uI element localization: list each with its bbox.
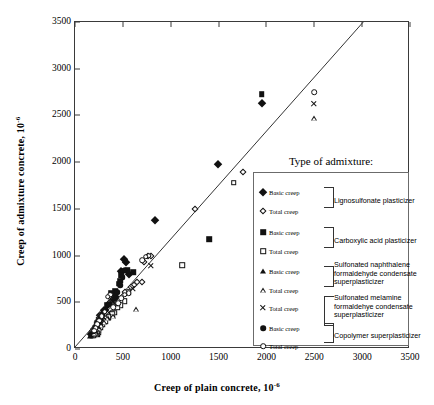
x-tick-label: 1500 bbox=[209, 353, 228, 363]
legend-group-brace bbox=[324, 266, 334, 287]
open-diamond-icon bbox=[259, 207, 266, 214]
legend-row[interactable]: Total creep bbox=[258, 341, 298, 351]
legend-group-name: Lignosulfonate plasticizer bbox=[334, 197, 415, 206]
legend-marker-filled-circle-icon bbox=[258, 324, 268, 333]
x-tick-mark bbox=[75, 22, 76, 27]
x-tick-label: 2000 bbox=[257, 353, 276, 363]
legend-row-label: Basic creep bbox=[269, 189, 300, 196]
data-point bbox=[110, 304, 116, 310]
filled-circle-icon bbox=[260, 325, 266, 331]
x-tick-label: 3500 bbox=[401, 353, 420, 363]
x-axis-label-text: Creep of plain concrete, 10 bbox=[154, 382, 274, 393]
data-point bbox=[206, 236, 212, 242]
legend-group-brace bbox=[324, 227, 334, 248]
x-tick-mark bbox=[122, 22, 123, 27]
open-circle-icon bbox=[260, 343, 266, 349]
legend-marker-filled-triangle-icon bbox=[258, 267, 268, 276]
legend-row[interactable]: Basic creep bbox=[258, 187, 300, 197]
legend-title: Type of admixture: bbox=[253, 155, 409, 167]
x-tick-mark bbox=[218, 22, 219, 27]
legend-row[interactable]: Basic creep bbox=[258, 323, 300, 333]
y-tick-mark bbox=[75, 255, 80, 256]
x-tick-label: 3000 bbox=[353, 353, 372, 363]
x-tick-mark bbox=[362, 22, 363, 27]
legend-row-label: Total creep bbox=[269, 208, 298, 215]
y-tick-label: 500 bbox=[57, 298, 71, 308]
y-tick-mark bbox=[75, 208, 80, 209]
legend-row[interactable]: Total creep bbox=[258, 303, 298, 313]
legend-row[interactable]: Basic creep bbox=[258, 227, 300, 237]
legend-marker-filled-diamond-icon bbox=[258, 188, 268, 197]
open-square-icon bbox=[260, 248, 266, 254]
data-point bbox=[91, 328, 97, 334]
data-point bbox=[120, 274, 126, 280]
legend-group-name: superplasticizer bbox=[334, 278, 384, 287]
y-tick-label: 3000 bbox=[52, 64, 71, 74]
legend-group-brace bbox=[324, 323, 334, 343]
y-tick-label: 1000 bbox=[52, 251, 71, 261]
legend-marker-open-circle-icon bbox=[258, 342, 268, 351]
legend-row[interactable]: Basic creep bbox=[258, 266, 300, 276]
y-tick-mark bbox=[75, 68, 80, 69]
y-tick-label: 3500 bbox=[52, 17, 71, 27]
legend-marker-open-triangle-icon bbox=[258, 286, 268, 295]
x-tick-mark bbox=[314, 22, 315, 27]
legend-marker-open-diamond-icon bbox=[258, 207, 268, 216]
data-point bbox=[311, 116, 317, 121]
legend-box: Basic creepTotal creepLignosulfonate pla… bbox=[253, 172, 409, 346]
x-tick-mark bbox=[170, 22, 171, 27]
x-tick-mark bbox=[410, 22, 411, 27]
legend-group-brace bbox=[324, 187, 334, 208]
data-point bbox=[147, 262, 153, 268]
x-tick-label: 2500 bbox=[305, 353, 324, 363]
y-tick-mark bbox=[75, 22, 80, 23]
data-point bbox=[179, 262, 185, 268]
y-tick-mark bbox=[75, 349, 80, 350]
y-axis-label-exponent: -6 bbox=[14, 116, 22, 122]
legend-row-label: Total creep bbox=[269, 248, 298, 255]
y-tick-label: 1500 bbox=[52, 204, 71, 214]
legend-row-label: Total creep bbox=[269, 343, 298, 350]
filled-square-icon bbox=[260, 229, 266, 235]
legend-group-brace bbox=[324, 296, 334, 326]
legend-marker-open-square-icon bbox=[258, 247, 268, 256]
legend-row-label: Basic creep bbox=[269, 325, 300, 332]
y-tick-mark bbox=[75, 162, 80, 163]
data-point bbox=[259, 91, 265, 97]
legend-marker-filled-square-icon bbox=[258, 228, 268, 237]
filled-triangle-icon bbox=[260, 269, 266, 274]
y-tick-label: 0 bbox=[66, 344, 71, 354]
data-point bbox=[105, 294, 111, 300]
x-tick-label: 1000 bbox=[161, 353, 180, 363]
data-point bbox=[311, 89, 317, 95]
legend-group-name: Copolymer superplasticizer bbox=[334, 332, 421, 341]
data-point bbox=[311, 101, 317, 107]
legend-row[interactable]: Total creep bbox=[258, 206, 298, 216]
y-tick-label: 2000 bbox=[52, 157, 71, 167]
legend-group-name: Carboxylic acid plasticizer bbox=[334, 237, 417, 246]
x-tick-label: 0 bbox=[73, 353, 78, 363]
x-tick-mark bbox=[266, 22, 267, 27]
legend-row-label: Total creep bbox=[269, 287, 298, 294]
x-axis-label-exponent: -6 bbox=[274, 381, 280, 389]
data-point bbox=[117, 283, 123, 289]
legend-row[interactable]: Total creep bbox=[258, 246, 298, 256]
y-tick-mark bbox=[75, 302, 80, 303]
legend-row-label: Basic creep bbox=[269, 229, 300, 236]
data-point bbox=[139, 257, 145, 263]
legend-row-label: Basic creep bbox=[269, 268, 300, 275]
legend-marker-cross-icon bbox=[258, 304, 268, 313]
data-point bbox=[122, 267, 128, 273]
open-triangle-icon bbox=[260, 288, 266, 293]
legend-row[interactable]: Total creep bbox=[258, 285, 298, 295]
y-axis-label: Creep of admixture concrete, 10-6 bbox=[14, 41, 26, 341]
data-point bbox=[231, 180, 237, 186]
cross-icon bbox=[260, 305, 266, 311]
x-axis-label: Creep of plain concrete, 10-6 bbox=[0, 381, 434, 393]
y-tick-mark bbox=[75, 115, 80, 116]
filled-diamond-icon bbox=[259, 188, 267, 196]
y-axis-label-text: Creep of admixture concrete, 10 bbox=[15, 123, 26, 266]
y-tick-label: 2500 bbox=[52, 111, 71, 121]
x-tick-label: 500 bbox=[116, 353, 130, 363]
creep-scatter-figure: 0500100015002000250030003500 05001000150… bbox=[0, 0, 434, 405]
